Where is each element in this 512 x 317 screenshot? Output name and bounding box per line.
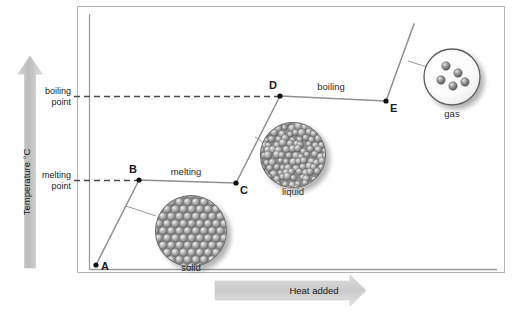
gas-caption: gas <box>444 108 460 119</box>
solid-caption: solid <box>181 262 201 273</box>
gas-state-circle <box>424 49 480 105</box>
curve-point-b <box>136 177 141 182</box>
boiling-point-tick-label: boiling point <box>45 86 72 107</box>
curve-point-a <box>93 262 98 267</box>
curve-point-d <box>277 93 282 98</box>
x-axis-label: Heat added <box>289 285 338 296</box>
curve-point-label-c: C <box>240 184 248 196</box>
boiling-tick-line2: point <box>51 97 71 107</box>
curve-point-label-b: B <box>129 163 137 175</box>
boiling-tick-line1: boiling <box>45 86 71 96</box>
boiling-segment-label: boiling <box>317 81 344 92</box>
curve-point-c <box>233 180 238 185</box>
curve-point-label-e: E <box>390 102 397 114</box>
melting-point-tick-label: melting point <box>42 170 72 191</box>
melting-tick-line1: melting <box>42 170 71 180</box>
liquid-caption: liquid <box>282 186 304 197</box>
melting-segment-label: melting <box>171 166 202 177</box>
curve-point-e <box>383 98 388 103</box>
curve-point-label-d: D <box>269 79 277 91</box>
heating-curve-figure: Temperature °C Heat added boiling point … <box>0 0 512 317</box>
melting-tick-line2: point <box>51 181 71 191</box>
y-axis-label: Temperature °C <box>21 149 32 216</box>
diagram-canvas: Temperature °C Heat added boiling point … <box>0 0 512 317</box>
curve-point-label-a: A <box>101 260 109 272</box>
